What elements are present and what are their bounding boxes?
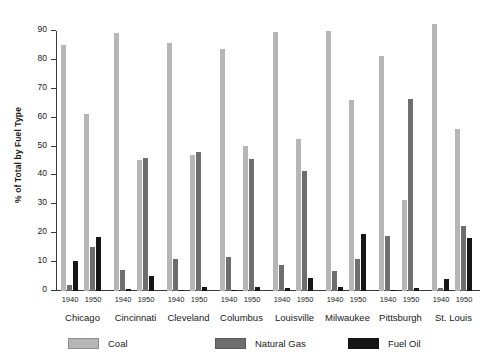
y-tick-label: 10 <box>38 255 47 265</box>
bar-coal <box>137 160 142 291</box>
bar-oil <box>179 290 184 291</box>
bar-group <box>321 31 374 291</box>
x-year-label: 1950 <box>288 295 322 304</box>
x-year-label: 1950 <box>235 295 269 304</box>
bar-coal <box>190 155 195 291</box>
x-year-label: 1950 <box>182 295 216 304</box>
y-tick-label: 30 <box>38 197 47 207</box>
y-tick-label: 90 <box>38 24 47 34</box>
bar-coal <box>379 56 384 291</box>
bar-coal <box>61 45 66 291</box>
legend-label: Fuel Oil <box>388 338 421 349</box>
legend-label: Natural Gas <box>255 338 306 349</box>
bar-group <box>374 31 427 291</box>
x-year-label: 1950 <box>447 295 481 304</box>
bar-coal <box>167 43 172 291</box>
legend-item-oil: Fuel Oil <box>348 336 421 350</box>
x-city-label: St. Louis <box>409 312 486 323</box>
bar-group <box>109 31 162 291</box>
plot-area: 0102030405060708090 19401950Chicago19401… <box>56 31 480 291</box>
legend-item-gas: Natural Gas <box>215 336 306 350</box>
bar-gas <box>196 152 201 291</box>
y-tick-label: 70 <box>38 82 47 92</box>
chart-legend: CoalNatural GasFuel Oil <box>0 336 486 352</box>
fuel-type-bar-chart: % of Total by Fuel Type 0102030405060708… <box>0 0 486 362</box>
bar-gas <box>120 270 125 291</box>
bar-gas <box>67 285 72 291</box>
legend-swatch-coal <box>68 338 99 349</box>
y-axis-title: % of Total by Fuel Type <box>13 75 23 235</box>
bar-gas <box>143 158 148 291</box>
bar-oil <box>285 288 290 291</box>
legend-swatch-gas <box>215 338 246 349</box>
bar-oil <box>444 279 449 291</box>
bar-oil <box>232 290 237 291</box>
bar-oil <box>308 278 313 291</box>
bar-coal <box>432 24 437 291</box>
bar-coal <box>243 146 248 291</box>
x-year-label: 1950 <box>129 295 163 304</box>
bar-gas <box>226 257 231 291</box>
bar-oil <box>467 238 472 291</box>
y-tick-label: 60 <box>38 111 47 121</box>
bar-coal <box>296 139 301 291</box>
bar-coal <box>455 129 460 291</box>
y-tick-label: 0 <box>42 284 47 294</box>
bar-gas <box>173 259 178 291</box>
bar-group <box>56 31 109 291</box>
x-year-label: 1950 <box>394 295 428 304</box>
bar-oil <box>391 290 396 291</box>
bar-oil <box>149 276 154 291</box>
bar-group <box>427 31 480 291</box>
bar-oil <box>73 261 78 291</box>
bar-coal <box>220 49 225 291</box>
bar-gas <box>279 265 284 291</box>
bar-coal <box>273 32 278 291</box>
y-tick-label: 50 <box>38 140 47 150</box>
bar-gas <box>438 288 443 291</box>
bar-gas <box>461 226 466 291</box>
bar-coal <box>326 31 331 291</box>
bar-gas <box>90 247 95 291</box>
bar-group <box>162 31 215 291</box>
x-year-label: 1950 <box>76 295 110 304</box>
x-year-label: 1950 <box>341 295 375 304</box>
bar-group <box>215 31 268 291</box>
bar-oil <box>255 287 260 291</box>
bar-oil <box>338 287 343 291</box>
legend-item-coal: Coal <box>68 336 128 350</box>
y-tick-label: 40 <box>38 168 47 178</box>
bar-gas <box>249 159 254 291</box>
bar-gas <box>302 171 307 291</box>
bar-oil <box>126 289 131 291</box>
bar-oil <box>361 234 366 291</box>
bar-gas <box>385 236 390 291</box>
bar-oil <box>202 287 207 291</box>
bar-gas <box>355 259 360 291</box>
figure-caption <box>0 357 486 362</box>
bar-coal <box>349 100 354 291</box>
bar-group <box>268 31 321 291</box>
bar-oil <box>96 237 101 291</box>
bar-gas <box>408 99 413 291</box>
bar-gas <box>332 271 337 291</box>
y-tick-label: 80 <box>38 53 47 63</box>
y-tick-label: 20 <box>38 226 47 236</box>
bar-coal <box>84 114 89 291</box>
legend-swatch-oil <box>348 338 379 349</box>
bar-oil <box>414 288 419 291</box>
bar-coal <box>114 33 119 291</box>
bar-coal <box>402 200 407 291</box>
legend-label: Coal <box>108 338 128 349</box>
